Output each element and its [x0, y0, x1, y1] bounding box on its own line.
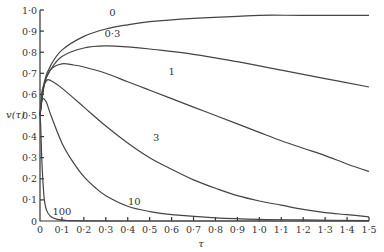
- x-tick-label: 0·1: [54, 224, 69, 235]
- y-tick-label: 0·6: [22, 89, 37, 100]
- y-axis-label: v(τ): [6, 109, 25, 120]
- y-tick-label: 0·4: [22, 131, 37, 142]
- y-axis-ticks: 00·10·20·30·40·50·60·70·80·91·0: [22, 5, 44, 227]
- x-tick-label: 0·5: [142, 224, 157, 235]
- curve-0: [40, 15, 369, 115]
- x-tick-label: 0: [37, 224, 43, 235]
- curve-label: 1: [168, 66, 174, 77]
- x-tick-label: 1·4: [340, 224, 355, 235]
- x-tick-label: 0·8: [208, 224, 223, 235]
- x-tick-label: 1·1: [274, 224, 289, 235]
- x-tick-label: 0·4: [120, 224, 135, 235]
- curve-0-3: [40, 46, 369, 116]
- curve-100: [40, 116, 369, 222]
- x-tick-label: 1·2: [296, 224, 311, 235]
- x-tick-label: 0·9: [230, 224, 245, 235]
- x-tick-label: 0·3: [98, 224, 113, 235]
- y-tick-label: 0·8: [22, 47, 37, 58]
- x-tick-label: 1·0: [252, 224, 267, 235]
- curve-1: [40, 64, 369, 172]
- x-axis-label: τ: [198, 238, 204, 249]
- curve-3: [40, 80, 369, 217]
- curves: [40, 15, 369, 221]
- curve-label: 0·3: [104, 28, 120, 39]
- line-chart: 00·10·20·30·40·50·60·70·80·91·0 00·10·20…: [0, 0, 384, 252]
- y-tick-label: 0·7: [22, 68, 37, 79]
- x-tick-label: 1·5: [361, 224, 376, 235]
- x-tick-label: 0·7: [186, 224, 201, 235]
- curve-labels: 00·31310100: [52, 7, 174, 216]
- curve-label: 100: [52, 206, 71, 217]
- curve-label: 3: [153, 132, 159, 143]
- axis-lines: [40, 10, 369, 221]
- y-tick-label: 0·2: [22, 173, 37, 184]
- y-tick-label: 0·3: [22, 152, 37, 163]
- x-tick-label: 0·6: [164, 224, 179, 235]
- x-tick-label: 0·2: [76, 224, 91, 235]
- y-tick-label: 0·1: [22, 194, 37, 205]
- x-tick-label: 1·3: [318, 224, 333, 235]
- y-tick-label: 1·0: [22, 5, 37, 16]
- curve-label: 0: [109, 7, 115, 18]
- curve-10: [40, 99, 369, 221]
- curve-label: 10: [128, 196, 141, 207]
- axes: [40, 10, 369, 221]
- y-tick-label: 0·9: [22, 26, 37, 37]
